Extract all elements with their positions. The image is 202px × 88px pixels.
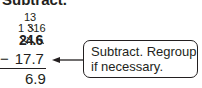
instruction-callout: Subtract. Regroup if necessary. bbox=[83, 40, 198, 78]
minuend: 24.6 bbox=[19, 32, 42, 48]
subtrahend: 17.7 bbox=[15, 50, 44, 67]
sum-rule bbox=[0, 68, 46, 69]
arrow-left-icon bbox=[52, 57, 84, 63]
section-heading: Subtract. bbox=[2, 0, 67, 8]
struck-digit: 2 bbox=[19, 32, 26, 48]
callout-line: if necessary. bbox=[91, 59, 197, 74]
answer: 6.9 bbox=[25, 70, 46, 87]
minus-sign: − bbox=[0, 50, 9, 67]
struck-digit: 4 bbox=[26, 32, 33, 48]
subtrahend-row: −17.7 bbox=[0, 50, 44, 67]
callout-line: Subtract. Regroup bbox=[91, 44, 197, 59]
struck-digit: 6 bbox=[35, 32, 42, 48]
